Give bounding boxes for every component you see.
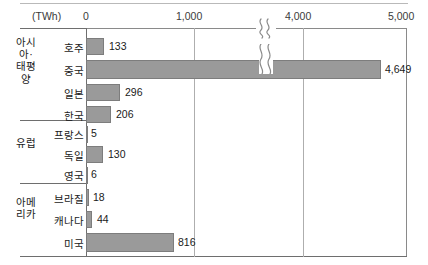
bar-value-korea: 206 (116, 108, 134, 120)
bar-germany (86, 146, 103, 163)
region-label-americas: 아메리카 (16, 196, 36, 220)
category-label-china: 중국 (64, 63, 84, 78)
category-label-australia: 호주 (64, 40, 84, 55)
bar-value-brazil: 18 (93, 191, 105, 203)
bar-canada (86, 211, 92, 228)
bar-value-japan: 296 (125, 86, 143, 98)
bar-usa (86, 233, 174, 252)
category-label-brazil: 브라질 (54, 191, 84, 206)
group-separator-europe-americas (20, 183, 86, 184)
x-tick-label-5000: 5,000 (388, 10, 414, 22)
axis-header: (TWh) 0 1,000 4,000 5,000 (0, 10, 428, 26)
bar-value-germany: 130 (108, 148, 126, 160)
bar-japan (86, 84, 120, 101)
bar-australia (86, 38, 104, 55)
region-label-europe: 유럽 (16, 137, 36, 149)
category-label-uk: 영국 (64, 168, 84, 183)
bar-france (86, 126, 88, 143)
bar-value-canada: 44 (97, 213, 109, 225)
category-label-korea: 한국 (64, 108, 84, 123)
region-label-asia-pacific: 아시아·태평양 (16, 36, 36, 85)
category-label-france: 프랑스 (54, 127, 84, 142)
x-tick-label-0: 0 (83, 10, 89, 22)
category-label-japan: 일본 (64, 86, 84, 101)
bar-value-china: 4,649 (385, 63, 411, 75)
x-tick-label-4000: 4,000 (285, 10, 311, 22)
plot-bottom-axis (86, 256, 407, 257)
bar-korea (86, 106, 111, 123)
label-column-top-rule (20, 28, 86, 29)
plot-top-axis (86, 28, 407, 29)
category-label-usa: 미국 (64, 236, 84, 251)
label-column-bottom-rule (20, 256, 86, 257)
bar-value-uk: 6 (91, 168, 97, 180)
bar-chart: (TWh) 0 1,000 4,000 5,000 아시아·태평양 유럽 아메리… (0, 0, 428, 265)
figure-top-rule (20, 3, 408, 4)
category-label-canada: 캐나다 (54, 213, 84, 228)
bar-value-france: 5 (91, 127, 97, 139)
category-label-germany: 독일 (64, 148, 84, 163)
bar-china (86, 60, 381, 79)
unit-label: (TWh) (32, 10, 61, 22)
bar-brazil (86, 189, 89, 206)
x-tick-label-1000: 1,000 (176, 10, 202, 22)
bar-value-usa: 816 (178, 236, 196, 248)
bar-uk (86, 167, 88, 184)
bar-value-australia: 133 (109, 40, 127, 52)
